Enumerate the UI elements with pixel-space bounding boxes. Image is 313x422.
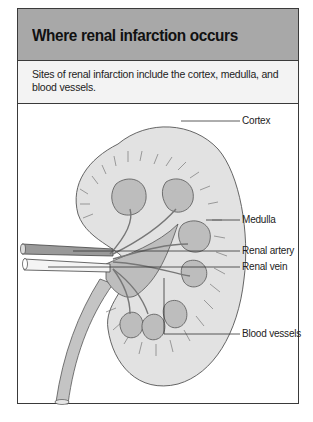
caption-text: Sites of renal infarction include the co…	[32, 68, 294, 94]
label-cortex: Cortex	[242, 115, 270, 126]
figure-caption: Sites of renal infarction include the co…	[18, 61, 298, 104]
renal-vein	[24, 259, 110, 272]
renal-artery	[22, 244, 113, 256]
label-renal-vein: Renal vein	[242, 261, 287, 272]
ureter	[56, 279, 113, 404]
label-renal-artery: Renal artery	[242, 245, 294, 256]
label-blood-vessels: Blood vessels	[242, 328, 301, 339]
kidney-illustration: Cortex Medulla Renal artery Renal vein B…	[18, 104, 298, 403]
figure-title: Where renal infarction occurs	[32, 26, 238, 45]
ureter-opening	[55, 400, 69, 405]
figure-header: Where renal infarction occurs	[18, 9, 298, 61]
label-medulla: Medulla	[242, 214, 276, 225]
figure-frame: Where renal infarction occurs Sites of r…	[17, 8, 299, 404]
